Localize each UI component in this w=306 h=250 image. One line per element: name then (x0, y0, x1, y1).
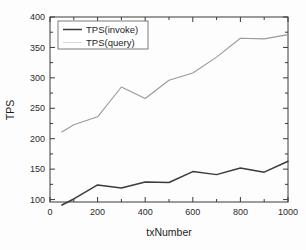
x-tick-label: 400 (138, 207, 153, 217)
x-axis-tick-labels: 02004006008001000 (47, 207, 298, 217)
y-tick-label: 200 (30, 134, 45, 144)
legend: TPS(invoke) TPS(query) (58, 21, 148, 49)
x-axis-title: txNumber (146, 226, 192, 238)
series-line-tps-invoke (62, 161, 288, 205)
y-axis-title: TPS (4, 100, 16, 120)
y-tick-label: 350 (30, 43, 45, 53)
x-tick-label: 0 (47, 207, 52, 217)
y-tick-label: 250 (30, 103, 45, 113)
x-tick-label: 1000 (278, 207, 298, 217)
y-tick-label: 300 (30, 73, 45, 83)
chart-figure: 100150200250300350400 02004006008001000 … (0, 0, 306, 250)
x-tick-label: 800 (233, 207, 248, 217)
line-chart: 100150200250300350400 02004006008001000 … (0, 0, 306, 250)
legend-label-tps-query: TPS(query) (86, 37, 135, 48)
y-axis-tick-labels: 100150200250300350400 (30, 12, 45, 205)
y-tick-label: 150 (30, 164, 45, 174)
y-tick-label: 400 (30, 12, 45, 22)
x-tick-label: 200 (90, 207, 105, 217)
legend-label-tps-invoke: TPS(invoke) (86, 24, 138, 35)
y-tick-label: 100 (30, 195, 45, 205)
x-tick-label: 600 (185, 207, 200, 217)
